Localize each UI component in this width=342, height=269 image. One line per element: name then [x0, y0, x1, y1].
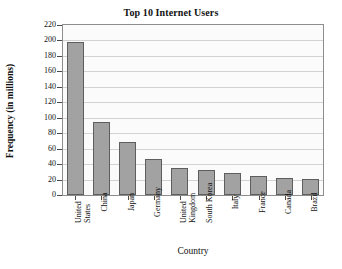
gridline-100 [63, 118, 323, 119]
gridline-120 [63, 102, 323, 103]
y-tick-label-120: 120 [30, 96, 56, 107]
x-axis-title: Country [62, 246, 324, 256]
y-tick-mark-200 [57, 40, 62, 41]
y-tick-label-140: 140 [30, 81, 56, 92]
y-axis-title-container: Frequency (in millions) [2, 22, 18, 200]
x-tick-label: Brazil [311, 192, 320, 212]
y-tick-label-100: 100 [30, 112, 56, 123]
plot-area [62, 24, 324, 196]
y-tick-mark-40 [57, 164, 62, 165]
gridline-60 [63, 149, 323, 150]
y-tick-label-160: 160 [30, 65, 56, 76]
y-tick-mark-160 [57, 71, 62, 72]
y-tick-mark-120 [57, 102, 62, 103]
y-tick-mark-100 [57, 118, 62, 119]
y-tick-mark-220 [57, 25, 62, 26]
y-tick-mark-180 [57, 56, 62, 57]
x-tick-label-container: Brazil [291, 202, 331, 246]
gridline-200 [63, 40, 323, 41]
x-axis-ticks: United StatesChinaJapanGermanyUnited Kin… [62, 196, 324, 246]
chart-title: Top 10 Internet Users [0, 7, 342, 18]
y-tick-label-220: 220 [30, 19, 56, 30]
y-tick-label-180: 180 [30, 50, 56, 61]
gridline-40 [63, 164, 323, 165]
y-tick-mark-60 [57, 149, 62, 150]
chart-container: Top 10 Internet Users Frequency (in mill… [0, 0, 342, 269]
gridline-180 [63, 56, 323, 57]
gridline-160 [63, 71, 323, 72]
y-tick-label-40: 40 [30, 158, 56, 169]
y-axis-title: Frequency (in millions) [5, 64, 15, 158]
y-axis-ticks: 220200180160140120100806040200 [28, 24, 62, 196]
y-tick-label-80: 80 [30, 127, 56, 138]
gridline-80 [63, 133, 323, 134]
y-tick-mark-140 [57, 87, 62, 88]
y-tick-label-0: 0 [30, 189, 56, 200]
y-tick-label-20: 20 [30, 174, 56, 185]
y-tick-label-200: 200 [30, 34, 56, 45]
gridline-140 [63, 87, 323, 88]
y-tick-mark-20 [57, 180, 62, 181]
y-tick-label-60: 60 [30, 143, 56, 154]
y-tick-mark-80 [57, 133, 62, 134]
